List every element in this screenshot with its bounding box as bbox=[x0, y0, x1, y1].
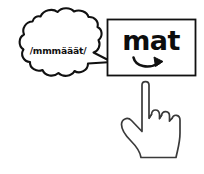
word-text: mat bbox=[122, 25, 180, 56]
scene-graphic: /mmmääät/ mat bbox=[0, 0, 204, 174]
speech-cloud-shape bbox=[20, 8, 112, 76]
speech-cloud-text: /mmmääät/ bbox=[30, 45, 87, 56]
illustration-canvas: /mmmääät/ mat bbox=[0, 0, 204, 174]
pointing-hand bbox=[122, 82, 181, 158]
speech-cloud: /mmmääät/ bbox=[20, 8, 112, 76]
word-box[interactable]: mat bbox=[108, 20, 196, 76]
